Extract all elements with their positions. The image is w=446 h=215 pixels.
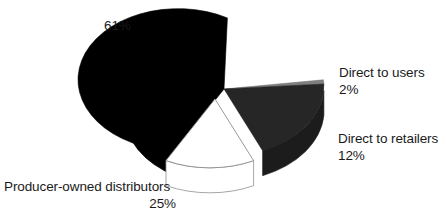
slice-label-direct-to-retailers-pct: 12% xyxy=(338,147,438,164)
slice-label-producer-owned-distributors-name: Producer-owned distributors xyxy=(4,178,176,195)
slice-label-largest: 61% xyxy=(104,17,131,34)
pie-chart-figure: 61% Direct to users 2% Direct to retaile… xyxy=(0,0,446,215)
slice-label-largest-pct: 61% xyxy=(104,17,131,34)
slice-label-direct-to-users-pct: 2% xyxy=(339,81,425,98)
slice-label-producer-owned-distributors: Producer-owned distributors 25% xyxy=(4,178,176,212)
slice-label-direct-to-users: Direct to users 2% xyxy=(339,64,425,98)
slice-label-direct-to-retailers-name: Direct to retailers xyxy=(338,131,438,146)
slice-label-producer-owned-distributors-pct: 25% xyxy=(4,195,176,212)
slice-label-direct-to-retailers: Direct to retailers 12% xyxy=(338,130,438,164)
slice-label-direct-to-users-name: Direct to users xyxy=(339,65,425,80)
